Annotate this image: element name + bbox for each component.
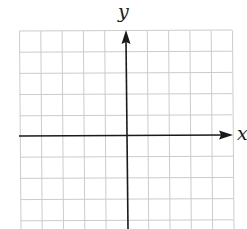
- x-axis-label: x: [237, 124, 247, 143]
- x-axis: [19, 131, 233, 140]
- x-axis-arrow-icon: [219, 131, 233, 140]
- y-axis-arrow-icon: [122, 30, 131, 44]
- y-axis-label: y: [118, 2, 129, 21]
- coordinate-grid: [0, 0, 247, 229]
